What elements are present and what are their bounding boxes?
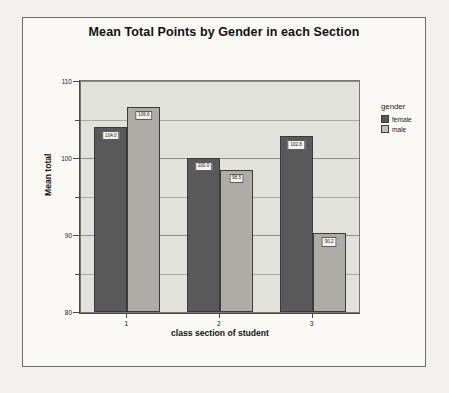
legend: gender female male: [381, 102, 412, 135]
bar-male-section-2[interactable]: 98.5: [220, 170, 253, 312]
bar-female-section-2[interactable]: 100.0: [187, 158, 220, 312]
gridline-major: [81, 81, 359, 82]
legend-item-female[interactable]: female: [381, 115, 412, 123]
plot-area: 104.0106.6100.098.5102.890.2: [80, 80, 360, 313]
gridline-minor: [81, 120, 359, 121]
y-tick: [73, 81, 79, 82]
y-tick-label: 100: [61, 155, 72, 162]
x-tick-label: 2: [217, 320, 221, 327]
bar-male-section-3[interactable]: 90.2: [313, 233, 346, 312]
y-tick-minor: [75, 274, 79, 275]
x-tick: [126, 313, 127, 318]
y-axis: 1101009080: [79, 80, 80, 314]
bar-value-label: 102.8: [287, 140, 305, 149]
bar-value-label: 104.0: [102, 131, 120, 140]
x-tick: [219, 313, 220, 318]
chart-frame: Mean Total Points by Gender in each Sect…: [22, 17, 426, 367]
legend-label-male: male: [392, 126, 406, 133]
legend-title: gender: [381, 102, 412, 111]
y-tick-minor: [75, 197, 79, 198]
y-tick-label: 90: [65, 232, 72, 239]
bar-value-label: 90.2: [322, 237, 337, 246]
legend-label-female: female: [392, 116, 412, 123]
legend-item-male[interactable]: male: [381, 125, 412, 133]
legend-swatch-female-icon: [381, 115, 389, 123]
bar-male-section-1[interactable]: 106.6: [127, 107, 160, 312]
x-axis: 123: [80, 313, 360, 314]
bar-value-label: 98.5: [229, 174, 244, 183]
bar-value-label: 106.6: [135, 111, 153, 120]
x-axis-title: class section of student: [80, 328, 360, 338]
x-tick-label: 3: [310, 320, 314, 327]
bar-female-section-3[interactable]: 102.8: [280, 136, 313, 312]
bar-value-label: 100.0: [195, 162, 213, 171]
x-tick-label: 1: [124, 320, 128, 327]
y-tick: [73, 235, 79, 236]
bar-female-section-1[interactable]: 104.0: [94, 127, 127, 312]
y-tick: [73, 158, 79, 159]
y-tick: [73, 312, 79, 313]
legend-swatch-male-icon: [381, 125, 389, 133]
chart-screenshot: Mean Total Points by Gender in each Sect…: [0, 0, 449, 393]
y-axis-title: Mean total: [43, 154, 53, 197]
y-tick-label: 80: [65, 309, 72, 316]
y-tick-label: 110: [62, 78, 72, 85]
chart-title: Mean Total Points by Gender in each Sect…: [23, 25, 425, 39]
y-tick-minor: [75, 120, 79, 121]
x-tick: [312, 313, 313, 318]
